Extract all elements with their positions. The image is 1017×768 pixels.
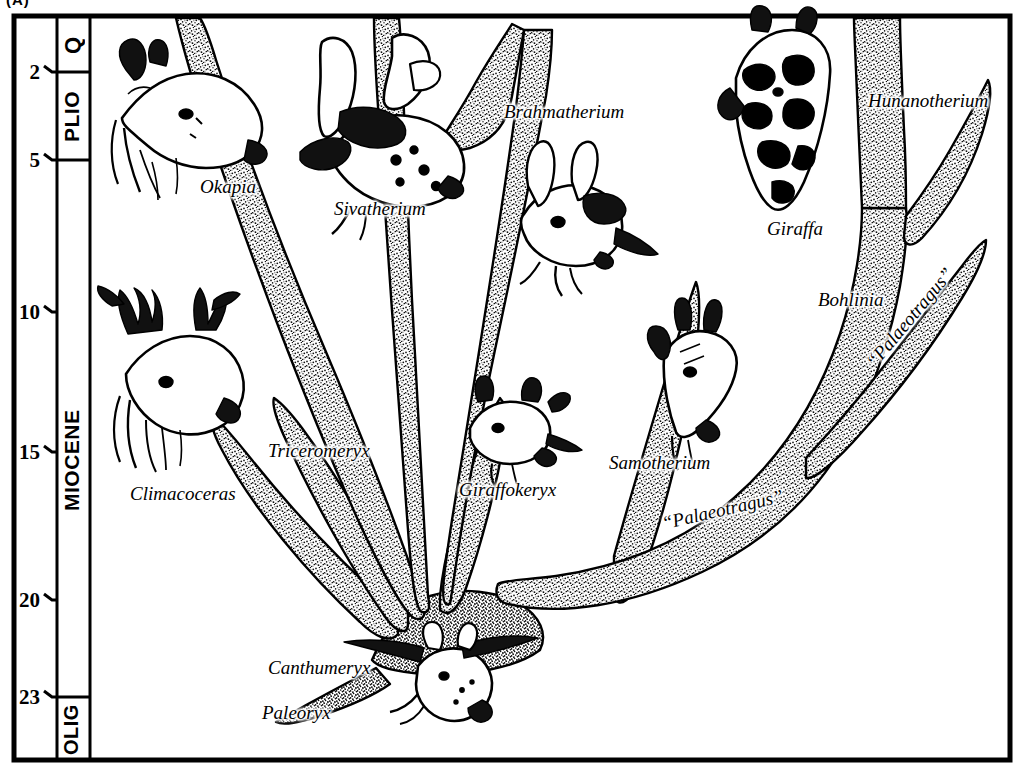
taxon-label-okapia: Okapia (200, 176, 256, 198)
epoch-oligocene: OLIG (60, 702, 88, 758)
figure-caption: (A) (6, 0, 30, 8)
taxon-label-triceromeryx: Triceromeryx (268, 440, 370, 462)
taxon-label-giraffa: Giraffa (767, 218, 823, 240)
epoch-quaternary: Q (60, 20, 88, 70)
time-tick-15: 15 (0, 440, 40, 465)
time-tick-20: 20 (0, 588, 40, 613)
taxon-label-bohlinia: Bohlinia (818, 289, 883, 311)
time-tick-23: 23 (0, 685, 40, 710)
taxon-label-samotherium: Samotherium (609, 452, 710, 474)
taxon-label-sivatherium: Sivatherium (334, 198, 426, 220)
taxon-label-paleoryx: Paleoryx (262, 702, 331, 724)
taxon-label-giraffokeryx: Giraffokeryx (459, 479, 556, 501)
time-tick-10: 10 (0, 300, 40, 325)
epoch-pliocene: PLIO (60, 76, 88, 156)
taxon-label-canthumeryx: Canthumeryx (268, 657, 370, 679)
head-brahmatherium (520, 141, 658, 296)
taxon-label-climacoceras: Climacoceras (130, 483, 236, 505)
epoch-miocene: MIOCENE (60, 380, 88, 540)
figure-canvas: (A) (0, 0, 1017, 768)
head-giraffa (718, 6, 830, 210)
time-tick-5: 5 (0, 148, 40, 173)
taxon-label-hunanotherium: Hunanotherium (868, 90, 988, 112)
time-tick-2: 2 (0, 60, 40, 85)
taxon-label-brahmatherium: Brahmatherium (504, 101, 624, 123)
